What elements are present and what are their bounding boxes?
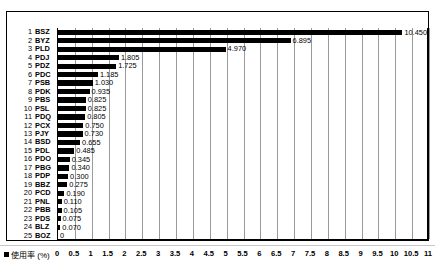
- x-tick-label: 7: [291, 249, 295, 258]
- category-code: BLZ: [35, 223, 55, 230]
- category-rank: 25: [21, 232, 32, 239]
- bar-value-label: 0.485: [76, 147, 95, 154]
- category-label: 18PDP: [21, 172, 55, 179]
- x-tick-label: 7.5: [305, 249, 316, 258]
- category-code: PDP: [35, 172, 55, 179]
- category-rank: 5: [21, 62, 32, 69]
- bar-value-label: 6.895: [293, 37, 312, 44]
- bar-row: 0.110: [58, 198, 427, 206]
- category-code: BSD: [35, 138, 55, 145]
- bar-value-label: 1.805: [121, 54, 140, 61]
- x-tick-label: 9.5: [372, 249, 383, 258]
- category-code: PDJ: [35, 54, 55, 61]
- x-tick-label: 3.5: [170, 249, 181, 258]
- category-label: 22PBB: [21, 206, 55, 213]
- category-code: PBB: [35, 206, 55, 213]
- x-tick-label: 4.5: [203, 249, 214, 258]
- bar: [58, 157, 70, 162]
- category-rank: 7: [21, 79, 32, 86]
- x-tick-label: 0: [55, 249, 59, 258]
- bar-row: 0.190: [58, 189, 427, 197]
- bar: [58, 216, 61, 221]
- bar-value-label: 0.340: [71, 164, 90, 171]
- category-rank: 8: [21, 88, 32, 95]
- category-code: PDK: [35, 88, 55, 95]
- bar-row: 1.805: [58, 53, 427, 61]
- bar-value-label: 0.825: [88, 96, 107, 103]
- footer-separator: [0, 245, 435, 246]
- bar-row: 0.300: [58, 172, 427, 180]
- x-tick-label: 2.5: [136, 249, 147, 258]
- x-tick-label: 9: [358, 249, 362, 258]
- bar: [58, 64, 116, 69]
- category-rank: 23: [21, 215, 32, 222]
- bar-value-label: 0.070: [62, 224, 81, 231]
- bar-row: 0.730: [58, 130, 427, 138]
- category-rank: 4: [21, 54, 32, 61]
- x-tick-label: 0.5: [69, 249, 80, 258]
- category-code: PSB: [35, 79, 55, 86]
- bar-value-label: 0.190: [66, 190, 85, 197]
- category-code: PDL: [35, 147, 55, 154]
- bar-value-label: 0.275: [69, 181, 88, 188]
- category-rank: 9: [21, 96, 32, 103]
- plot-area: 10.4506.8954.9701.8051.7251.1851.0300.93…: [57, 28, 428, 240]
- x-tick-label: 11: [424, 249, 432, 258]
- bar-row: 0.345: [58, 155, 427, 163]
- bar: [58, 199, 62, 204]
- category-rank: 18: [21, 172, 32, 179]
- category-label: 23PDS: [21, 215, 55, 222]
- category-code: BSZ: [35, 28, 55, 35]
- bar: [58, 191, 64, 196]
- bar-value-label: 0.935: [92, 88, 111, 95]
- bar-row: 0.070: [58, 223, 427, 231]
- category-rank: 19: [21, 181, 32, 188]
- bar-value-label: 0.750: [85, 122, 104, 129]
- category-rank: 21: [21, 198, 32, 205]
- bar: [58, 182, 67, 187]
- category-rank: 17: [21, 164, 32, 171]
- x-tick-label: 1: [89, 249, 93, 258]
- category-rank: 24: [21, 223, 32, 230]
- category-rank: 15: [21, 147, 32, 154]
- bar-row: 0.275: [58, 181, 427, 189]
- category-rank: 14: [21, 138, 32, 145]
- bar-value-label: 0.075: [63, 215, 82, 222]
- category-code: PDS: [35, 215, 55, 222]
- bar-row: 0: [58, 232, 427, 240]
- x-tick-label: 8.5: [338, 249, 349, 258]
- bar: [58, 131, 83, 136]
- bar-rows: 10.4506.8954.9701.8051.7251.1851.0300.93…: [58, 28, 427, 239]
- bar-row: 0.825: [58, 104, 427, 112]
- category-label: 21PNL: [21, 198, 55, 205]
- bar: [58, 114, 85, 119]
- category-label: 15PDL: [21, 147, 55, 154]
- category-label: 14BSD: [21, 138, 55, 145]
- bar-row: 0.805: [58, 113, 427, 121]
- category-label: 6PDC: [21, 71, 55, 78]
- bar: [58, 55, 119, 60]
- category-label: 3PLD: [21, 45, 55, 52]
- category-label: 8PDK: [21, 88, 55, 95]
- bar: [58, 208, 62, 213]
- bar-row: 10.450: [58, 28, 427, 36]
- bar-value-label: 0.730: [85, 130, 104, 137]
- category-rank: 20: [21, 189, 32, 196]
- bar: [58, 165, 69, 170]
- category-label: 1BSZ: [21, 28, 55, 35]
- x-tick-label: 10.5: [404, 249, 419, 258]
- category-code: PJY: [35, 130, 55, 137]
- category-rank: 13: [21, 130, 32, 137]
- category-label: 12PCX: [21, 122, 55, 129]
- category-rank: 2: [21, 37, 32, 44]
- bar-value-label: 4.970: [228, 45, 247, 52]
- legend-label: 使用率 (%): [11, 249, 50, 260]
- bar-row: 0.105: [58, 206, 427, 214]
- category-label: 25BOZ: [21, 232, 55, 239]
- category-code: BYZ: [35, 37, 55, 44]
- x-tick-label: 6.5: [271, 249, 282, 258]
- bar-value-label: 1.030: [95, 79, 114, 86]
- category-label: 9PBS: [21, 96, 55, 103]
- bar-row: 1.185: [58, 70, 427, 78]
- x-tick-label: 8: [325, 249, 329, 258]
